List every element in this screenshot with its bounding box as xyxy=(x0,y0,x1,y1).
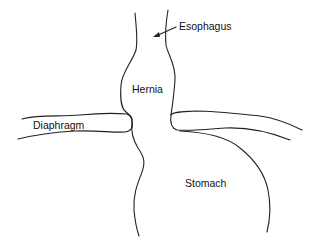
label-esophagus: Esophagus xyxy=(179,20,232,32)
hiatal-hernia-diagram: Esophagus Hernia Diaphragm Stomach xyxy=(0,0,312,240)
esophagus-right-wall xyxy=(166,10,175,115)
label-hernia: Hernia xyxy=(132,83,163,95)
label-diaphragm: Diaphragm xyxy=(33,119,85,131)
label-stomach: Stomach xyxy=(185,177,227,189)
diaphragm-right-upper xyxy=(171,111,302,130)
arrow-head-icon xyxy=(153,32,160,37)
